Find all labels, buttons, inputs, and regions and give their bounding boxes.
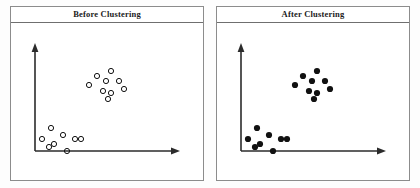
data-point bbox=[270, 148, 276, 154]
data-point bbox=[300, 73, 306, 79]
data-point bbox=[94, 73, 99, 78]
plot-svg-before bbox=[11, 23, 203, 181]
plot-svg-after bbox=[217, 23, 409, 181]
data-point bbox=[116, 78, 121, 83]
data-point bbox=[105, 96, 110, 101]
figure-canvas: Before Clustering After Clustering bbox=[0, 0, 420, 188]
y-axis-arrowhead-icon bbox=[32, 43, 39, 52]
data-point bbox=[311, 96, 317, 102]
scatter-plot-after bbox=[217, 23, 409, 181]
data-point bbox=[284, 136, 290, 142]
data-point bbox=[72, 136, 77, 141]
data-points-after bbox=[245, 68, 333, 154]
data-point bbox=[103, 78, 108, 83]
panel-before-clustering: Before Clustering bbox=[10, 6, 204, 181]
panel-title-after: After Clustering bbox=[217, 7, 409, 23]
data-point bbox=[322, 78, 328, 84]
data-point bbox=[108, 90, 113, 95]
data-point bbox=[78, 136, 83, 141]
data-point bbox=[292, 82, 298, 88]
data-point bbox=[266, 132, 272, 138]
scatter-plot-before bbox=[11, 23, 203, 181]
data-point bbox=[100, 88, 105, 93]
data-point bbox=[314, 68, 320, 74]
data-point bbox=[309, 78, 315, 84]
data-point bbox=[46, 144, 51, 149]
data-point bbox=[254, 125, 260, 131]
data-point bbox=[252, 144, 258, 150]
data-point bbox=[121, 86, 126, 91]
data-points-before bbox=[39, 68, 126, 153]
x-axis-arrowhead-icon bbox=[171, 148, 180, 155]
data-point bbox=[51, 141, 56, 146]
data-point bbox=[327, 86, 333, 92]
panel-after-clustering: After Clustering bbox=[216, 6, 410, 181]
panel-title-before: Before Clustering bbox=[11, 7, 203, 23]
y-axis-arrowhead-icon bbox=[238, 43, 245, 52]
data-point bbox=[108, 68, 113, 73]
data-point bbox=[48, 125, 53, 130]
data-point bbox=[314, 90, 320, 96]
data-point bbox=[86, 82, 91, 87]
data-point bbox=[39, 136, 44, 141]
data-point bbox=[306, 88, 312, 94]
x-axis-arrowhead-icon bbox=[377, 148, 386, 155]
data-point bbox=[245, 136, 251, 142]
data-point bbox=[60, 132, 65, 137]
data-point bbox=[278, 136, 284, 142]
